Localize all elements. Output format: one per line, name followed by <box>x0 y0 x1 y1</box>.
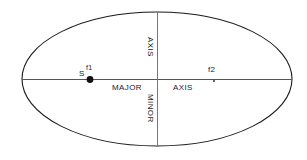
ellipse-drawing <box>0 0 307 160</box>
minor-axis-label: MINOR <box>146 94 154 123</box>
major-axis-label: MAJOR <box>112 84 142 92</box>
focus-1-label: f1 <box>86 64 93 71</box>
focus-2-label: f2 <box>208 66 215 74</box>
focus-1-marker <box>87 76 94 83</box>
focus-2-marker <box>213 80 215 82</box>
minor-axis-word-label: AXIS <box>146 37 154 57</box>
ellipse-diagram: S f1 f2 MAJOR AXIS AXIS MINOR <box>0 0 307 160</box>
sun-label: S <box>79 70 85 78</box>
major-axis-word-label: AXIS <box>173 84 193 92</box>
